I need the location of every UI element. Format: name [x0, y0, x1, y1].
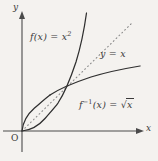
inverse-equation-radicand: x: [126, 98, 134, 110]
origin-label: O: [11, 134, 19, 143]
identity-equation-label: y = x: [100, 49, 126, 59]
inverse-equation-label: f−1(x) = √x: [79, 99, 134, 110]
y-axis-label: y: [13, 3, 18, 12]
x-axis-label: x: [146, 124, 151, 133]
x-axis-arrowhead: [136, 128, 144, 134]
parabola-equation-base: f(x) = x: [30, 31, 67, 42]
sqrt-curve-upper: [50, 66, 140, 95]
inverse-equation-middle: (x) =: [93, 99, 121, 110]
graph-canvas: [0, 0, 158, 161]
function-graph-figure: y x O f(x) = x2 y = x f−1(x) = √x: [0, 0, 158, 161]
parabola-equation-exponent: 2: [67, 30, 71, 38]
inverse-equation-exponent: −1: [83, 98, 93, 106]
parabola-equation-label: f(x) = x2: [30, 31, 72, 42]
y-axis-arrowhead: [19, 11, 25, 19]
